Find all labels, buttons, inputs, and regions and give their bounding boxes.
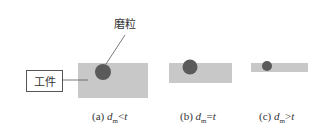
abrasive-grain-b xyxy=(183,60,198,75)
caption-a: (a) dm<t xyxy=(92,110,127,125)
caption-prefix: (b) xyxy=(180,110,196,122)
panel-a-graphic xyxy=(63,35,148,98)
caption-prefix: (c) xyxy=(259,110,274,122)
abrasive-label: 磨粒 xyxy=(114,15,136,31)
caption-c: (c) dm>t xyxy=(259,110,294,125)
abrasive-leader-line xyxy=(106,35,125,64)
abrasive-grain-c xyxy=(262,61,272,71)
caption-prefix: (a) xyxy=(92,110,107,122)
workpiece-label: 工件 xyxy=(26,70,63,92)
workpiece-c xyxy=(251,63,308,72)
caption-rhs: t xyxy=(291,110,294,122)
workpiece-label-text: 工件 xyxy=(34,73,56,89)
panel-b-graphic xyxy=(169,60,232,84)
abrasive-grain-a xyxy=(95,64,111,80)
workpiece-a xyxy=(78,63,148,98)
caption-b: (b) dm=t xyxy=(180,110,216,125)
panel-c-graphic xyxy=(251,61,308,72)
workpiece-b xyxy=(169,63,232,83)
caption-rhs: t xyxy=(213,110,216,122)
caption-rhs: t xyxy=(124,110,127,122)
